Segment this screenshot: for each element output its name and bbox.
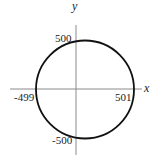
label-top-500: 500 <box>55 33 72 44</box>
label-left-neg499: -499 <box>14 92 34 103</box>
diagram-canvas <box>0 0 156 163</box>
y-axis-label: y <box>72 1 77 12</box>
label-bottom-neg500: -500 <box>52 135 72 146</box>
x-axis-label: x <box>144 83 149 94</box>
label-right-501: 501 <box>115 92 132 103</box>
